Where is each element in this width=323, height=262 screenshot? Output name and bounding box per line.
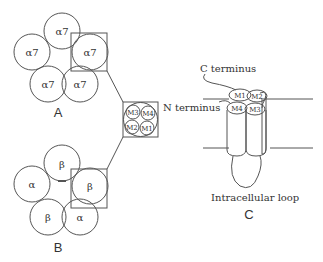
segment-label: M4 bbox=[142, 110, 154, 118]
panel-label-b: B bbox=[54, 240, 63, 255]
panel-c-membrane bbox=[203, 74, 313, 188]
subunit-labels: α7 α7 α7 α7 α7 β α β β α bbox=[25, 26, 96, 223]
subunit-label: α7 bbox=[41, 79, 54, 90]
helix-label: M2 bbox=[251, 93, 263, 101]
subunit-label: β bbox=[59, 159, 65, 170]
subunit-label: α bbox=[29, 179, 36, 190]
intracellular-loop-label: Intracellular loop bbox=[211, 192, 299, 203]
receptor-diagram: α7 α7 α7 α7 α7 β α β β α M3 M4 M2 M1 M1 … bbox=[0, 0, 323, 262]
helix-label: M3 bbox=[249, 106, 261, 114]
subunit-label: α7 bbox=[55, 26, 68, 37]
segment-label: M3 bbox=[127, 109, 139, 117]
helix-label: M4 bbox=[231, 105, 243, 113]
connector-a bbox=[107, 71, 123, 102]
segment-label: M2 bbox=[126, 124, 138, 132]
subunit-label: α7 bbox=[83, 47, 96, 58]
c-terminus-label: C terminus bbox=[200, 63, 256, 74]
helix-label: M1 bbox=[234, 92, 246, 100]
panel-label-c: C bbox=[244, 207, 253, 222]
subunit-label: α7 bbox=[73, 79, 86, 90]
n-terminus-label: N terminus bbox=[163, 102, 220, 113]
subunit-label: α7 bbox=[25, 47, 38, 58]
panel-c-annotations: C terminus N terminus Intracellular loop bbox=[163, 63, 299, 203]
subunit-label: β bbox=[45, 212, 51, 223]
subunit-label: β bbox=[87, 181, 93, 192]
connector-b bbox=[107, 137, 123, 169]
subunit-label: α bbox=[77, 212, 84, 223]
segment-label: M1 bbox=[141, 125, 153, 133]
panel-label-a: A bbox=[54, 105, 63, 120]
